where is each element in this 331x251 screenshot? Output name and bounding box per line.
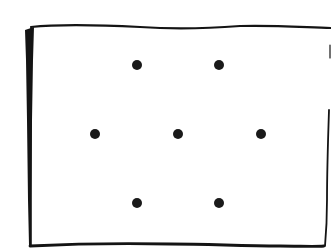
dot-middle-right bbox=[256, 129, 266, 139]
frame-left-edge bbox=[25, 27, 34, 245]
dot-center bbox=[173, 129, 183, 139]
dot-grid bbox=[90, 60, 266, 208]
frame-top-edge bbox=[31, 25, 331, 28]
diagram-canvas bbox=[0, 0, 331, 251]
dot-bottom-right bbox=[214, 198, 224, 208]
dot-middle-left bbox=[90, 129, 100, 139]
dot-top-left bbox=[132, 60, 142, 70]
frame-bottom-edge bbox=[30, 244, 324, 247]
dot-bottom-left bbox=[132, 198, 142, 208]
frame-right-edge bbox=[325, 110, 329, 246]
dot-top-right bbox=[214, 60, 224, 70]
